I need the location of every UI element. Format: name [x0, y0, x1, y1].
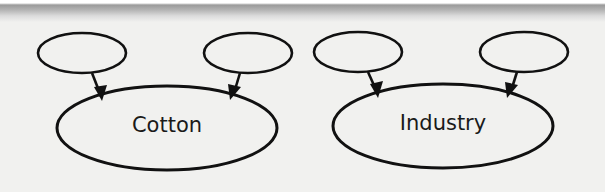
concept-diagram: Cotton Industry	[0, 0, 605, 192]
industry-node-label: Industry	[400, 111, 486, 135]
cotton-group: Cotton	[38, 33, 292, 170]
industry-group: Industry	[314, 32, 568, 168]
cotton-input-node-left[interactable]	[38, 33, 126, 73]
cotton-node-label: Cotton	[132, 113, 202, 137]
cotton-input-node-right[interactable]	[204, 33, 292, 73]
industry-input-node-left[interactable]	[314, 32, 402, 72]
industry-input-node-right[interactable]	[480, 32, 568, 72]
